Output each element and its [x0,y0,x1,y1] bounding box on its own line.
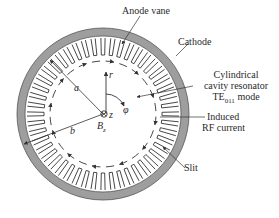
symbol-r: r [109,69,113,80]
anode-vane-label: Anode vane [122,5,170,16]
induced-line2: RF current [202,122,245,133]
resonator-label-line1: Cylindrical [193,69,279,80]
induced-line1: Induced [207,111,245,122]
symbol-a: a [74,82,79,93]
resonator-label: Cylindrical cavity resonator TE011 mode [193,69,279,107]
mode-te: TE [212,91,224,102]
magnetron-diagram [0,0,279,218]
radius-b-line [24,114,103,144]
mode-index: 011 [225,97,235,105]
induced-current-label: Induced RF current [207,111,245,133]
bz-sub: z [103,126,106,134]
mode-suffix: mode [235,91,260,102]
slit-label: Slit [184,162,198,173]
phi-arc-arrow [106,94,124,106]
symbol-b: b [70,125,75,136]
symbol-phi: φ [123,104,129,115]
symbol-z: z [109,109,113,120]
resonator-label-line2: cavity resonator [193,80,279,91]
cathode-label: Cathode [178,36,211,47]
symbol-bz: Bz [97,120,106,136]
resonator-label-line3: TE011 mode [193,91,279,107]
